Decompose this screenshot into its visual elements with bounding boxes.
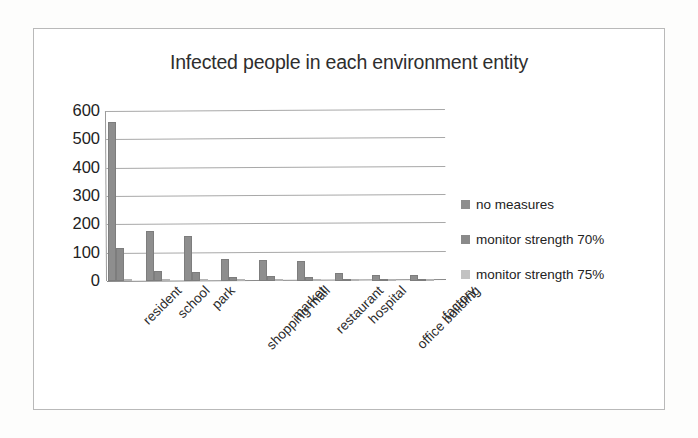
legend-item: monitor strength 70% [461, 232, 661, 247]
x-axis-tick-label: resident [140, 283, 185, 328]
legend-swatch-icon [461, 270, 470, 279]
bar-group [335, 111, 373, 281]
bars-layer [106, 111, 446, 281]
bar-group [108, 111, 146, 281]
bar [275, 279, 283, 281]
bar [108, 122, 116, 281]
bar [237, 279, 245, 281]
legend-item: monitor strength 75% [461, 267, 661, 282]
legend-label: monitor strength 70% [476, 232, 604, 247]
bar [162, 279, 170, 281]
y-axis-tick-500: 500 [54, 129, 100, 148]
legend-swatch-icon [461, 235, 470, 244]
bar [267, 276, 275, 281]
legend-item: no measures [461, 197, 661, 212]
x-axis-labels: residentschoolparkshopping mallmarketres… [106, 283, 466, 383]
bar [154, 271, 162, 281]
bar [343, 279, 351, 281]
bar [305, 277, 313, 281]
x-axis-tick-label: park [209, 283, 238, 312]
bar [297, 261, 305, 281]
bar [259, 260, 267, 281]
bar [426, 279, 434, 281]
bar [116, 248, 124, 281]
bar [410, 275, 418, 281]
bar [184, 236, 192, 281]
legend-label: monitor strength 75% [476, 267, 604, 282]
bar [200, 279, 208, 281]
bar [124, 279, 132, 281]
chart-title: Infected people in each environment enti… [34, 51, 664, 74]
bar [380, 279, 388, 281]
page-background: Infected people in each environment enti… [0, 0, 698, 438]
bar-group [259, 111, 297, 281]
bar-group [146, 111, 184, 281]
legend-swatch-icon [461, 200, 470, 209]
y-axis-tick-100: 100 [54, 243, 100, 262]
chart-frame: Infected people in each environment enti… [33, 28, 665, 410]
bar [418, 279, 426, 281]
bar-group [410, 111, 448, 281]
bar [146, 231, 154, 281]
bar [351, 279, 359, 281]
bar-group [297, 111, 335, 281]
y-axis-tick-300: 300 [54, 186, 100, 205]
y-axis-tick-200: 200 [54, 214, 100, 233]
chart-legend: no measuresmonitor strength 70%monitor s… [461, 197, 661, 302]
y-axis-tick-400: 400 [54, 158, 100, 177]
bar [229, 277, 237, 281]
bar [192, 272, 200, 281]
y-axis-tick-600: 600 [54, 101, 100, 120]
bar-group [221, 111, 259, 281]
bar [372, 275, 380, 281]
legend-label: no measures [476, 197, 554, 212]
bar [313, 279, 321, 281]
bar-group [372, 111, 410, 281]
bar [335, 273, 343, 282]
bar [388, 279, 396, 281]
bar-group [184, 111, 222, 281]
y-axis: 0100200300400500600 [48, 111, 100, 281]
y-axis-tick-0: 0 [54, 271, 100, 290]
bar [221, 259, 229, 281]
